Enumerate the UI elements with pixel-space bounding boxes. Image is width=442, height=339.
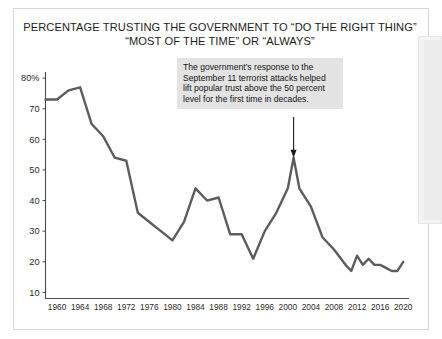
x-tick-label: 1964 (71, 302, 90, 312)
x-tick-label: 1980 (163, 302, 182, 312)
x-tick-label: 1972 (117, 302, 136, 312)
x-tick-label: 1984 (186, 302, 205, 312)
x-tick-label: 2004 (302, 302, 321, 312)
annotation-line-1: The government’s response to the (183, 62, 337, 73)
x-tick-label: 1960 (48, 302, 67, 312)
x-tick-label: 2016 (371, 302, 390, 312)
x-axis-tick-labels: 1960196419681972197619801984198819921996… (48, 302, 413, 312)
x-tick-label: 1988 (209, 302, 228, 312)
y-tick-label: 70 (29, 104, 39, 114)
annotation-line-4: level for the first time in decades. (183, 94, 337, 105)
y-tick-label: 60 (29, 135, 39, 145)
data-line-trust (46, 87, 404, 271)
x-tick-label: 1996 (256, 302, 275, 312)
x-tick-label: 1968 (94, 302, 113, 312)
x-tick-label: 2020 (394, 302, 413, 312)
chart-canvas: 1020304050607080% 1960196419681972197619… (0, 0, 442, 339)
annotation-arrow-head (291, 150, 297, 158)
y-tick-label: 10 (29, 288, 39, 298)
x-tick-label: 2008 (325, 302, 344, 312)
y-tick-label: 30 (29, 226, 39, 236)
x-tick-label: 2012 (348, 302, 367, 312)
annotation-line-3: lift popular trust above the 50 percent (183, 83, 337, 94)
x-tick-label: 1992 (232, 302, 251, 312)
annotation-line-2: September 11 terrorist attacks helped (183, 73, 337, 84)
y-tick-label: 50 (29, 165, 39, 175)
annotation-callout-box: The government’s response to the Septemb… (177, 58, 343, 109)
y-tick-label: 80% (21, 73, 39, 83)
y-tick-label: 20 (29, 257, 39, 267)
chart-screenshot: PERCENTAGE TRUSTING THE GOVERNMENT TO “D… (0, 0, 442, 339)
y-axis-tick-labels: 1020304050607080% (21, 73, 39, 297)
x-tick-label: 2000 (279, 302, 298, 312)
y-tick-label: 40 (29, 196, 39, 206)
x-tick-label: 1976 (140, 302, 159, 312)
